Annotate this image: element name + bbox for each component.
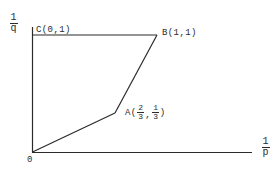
fraction-numerator: 2 (137, 104, 144, 112)
fraction-denominator: 3 (137, 112, 144, 121)
fraction-denominator: 3 (152, 112, 159, 121)
point-label-a: A ( 2 3 , 1 3 ) (125, 104, 166, 121)
open-paren: ( (131, 108, 137, 118)
fraction-numerator: 1 (10, 13, 18, 23)
fraction-denominator: q (10, 23, 18, 34)
segment-origin-to-a (33, 113, 116, 152)
y-axis-label: 1 q (9, 13, 18, 34)
fraction-one-over-p: 1 p (262, 137, 270, 158)
math-figure: 1 q 1 p C(0,1) B(1,1) 0 A ( 2 3 , 1 3 ) (0, 0, 280, 180)
segment-a-to-b (115, 35, 157, 113)
fraction-numerator: 1 (152, 104, 159, 112)
fraction-denominator: p (262, 147, 270, 158)
origin-label: 0 (27, 155, 33, 165)
close-paren: ) (160, 108, 166, 118)
coord-comma: , (145, 110, 152, 120)
fraction-one-third: 1 3 (152, 104, 159, 121)
point-label-c: C(0,1) (36, 25, 71, 35)
fraction-two-thirds: 2 3 (137, 104, 144, 121)
fraction-numerator: 1 (262, 137, 270, 147)
fraction-one-over-q: 1 q (10, 13, 18, 34)
point-label-b: B(1,1) (162, 28, 197, 38)
x-axis-label: 1 p (261, 137, 270, 158)
